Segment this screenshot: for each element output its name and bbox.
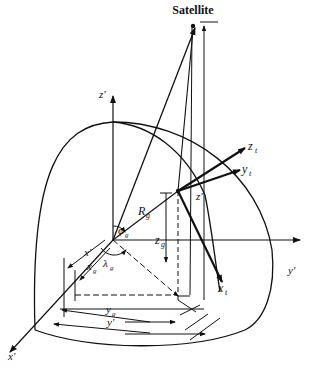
- lambda-g-label: λ g: [102, 257, 114, 272]
- svg-text:t: t: [249, 169, 252, 178]
- satellite-vector: [113, 28, 195, 240]
- R-g-label: R g: [137, 204, 150, 220]
- y-t-label: y t: [241, 162, 252, 178]
- station-projection-lines: [75, 191, 190, 300]
- coordinate-axes: [10, 96, 300, 352]
- satellite-geometry-figure: Satellite z' y' x' z t y t x t R g z g z…: [0, 0, 310, 368]
- x-prime-dimension-label: x': [83, 246, 92, 258]
- phi-g-label: φ g: [118, 224, 129, 239]
- satellite-point: [191, 24, 195, 28]
- ground-dimension-lines: [54, 240, 220, 340]
- x-prime-axis-label: x': [7, 350, 16, 362]
- svg-text:z': z': [195, 190, 203, 202]
- z-g-label: z g: [154, 233, 165, 249]
- svg-text:y: y: [105, 303, 111, 315]
- satellite-label: Satellite: [172, 3, 214, 17]
- z-prime-dimension-label: z': [195, 190, 203, 202]
- svg-text:φ: φ: [118, 224, 124, 236]
- y-t-axis: [178, 170, 240, 191]
- svg-text:z: z: [154, 233, 160, 247]
- x-t-label: x t: [217, 281, 228, 297]
- svg-text:y': y': [106, 316, 115, 328]
- svg-text:t: t: [255, 146, 258, 155]
- earth-octant-outline: [34, 122, 272, 346]
- svg-text:t: t: [225, 288, 228, 297]
- y-prime-dimension-label: y': [106, 316, 115, 328]
- x-prime-axis: [10, 240, 113, 352]
- svg-text:g: g: [125, 231, 129, 239]
- svg-text:x: x: [217, 281, 224, 295]
- z-t-label: z t: [247, 139, 258, 155]
- svg-text:x': x': [83, 246, 92, 258]
- svg-text:g: g: [146, 211, 150, 220]
- svg-text:R: R: [137, 204, 146, 218]
- svg-text:λ: λ: [102, 257, 108, 269]
- svg-text:y: y: [241, 162, 248, 176]
- satellite-drop-line: [190, 28, 192, 295]
- z-prime-axis-label: z': [98, 88, 106, 100]
- svg-text:g: g: [93, 267, 97, 275]
- svg-text:g: g: [110, 264, 114, 272]
- x-t-axis: [178, 191, 222, 282]
- svg-text:z: z: [247, 139, 253, 153]
- x-g-label: x g: [86, 260, 97, 275]
- svg-text:x: x: [86, 260, 92, 272]
- y-prime-axis-label: y': [287, 264, 296, 276]
- topocentric-axes: [178, 148, 245, 282]
- svg-text:g: g: [161, 240, 165, 249]
- diagram-canvas: Satellite z' y' x' z t y t x t R g z g z…: [0, 0, 310, 368]
